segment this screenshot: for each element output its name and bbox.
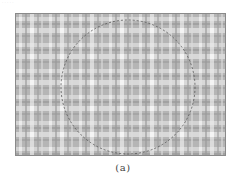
faint-header-text: · · · · ·: [2, 1, 13, 5]
figure-caption: (a): [0, 162, 246, 173]
plaid-texture-image: [15, 13, 226, 156]
plaid-pattern: [16, 14, 226, 156]
